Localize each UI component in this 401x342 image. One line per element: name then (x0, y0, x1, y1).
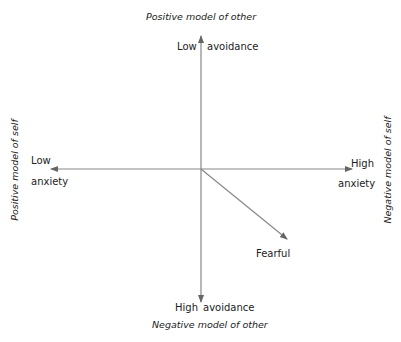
top-left-label: Low (177, 41, 197, 52)
fearful-vector (201, 169, 287, 239)
top-right-label: avoidance (207, 41, 258, 52)
right-top-label: High (351, 158, 374, 169)
top-outer-label: Positive model of other (146, 11, 256, 22)
left-top-label: Low (31, 155, 51, 166)
right-bottom-label: anxiety (338, 178, 375, 189)
bottom-outer-label: Negative model of other (152, 319, 268, 330)
fearful-label: Fearful (256, 248, 290, 259)
left-bottom-label: anxiety (31, 176, 68, 187)
bottom-left-label: High (175, 302, 198, 313)
diagram-canvas (0, 0, 401, 342)
left-outer-label: Positive model of self (9, 119, 20, 221)
bottom-right-label: avoidance (203, 302, 254, 313)
right-outer-label: Negative model of self (382, 116, 393, 223)
